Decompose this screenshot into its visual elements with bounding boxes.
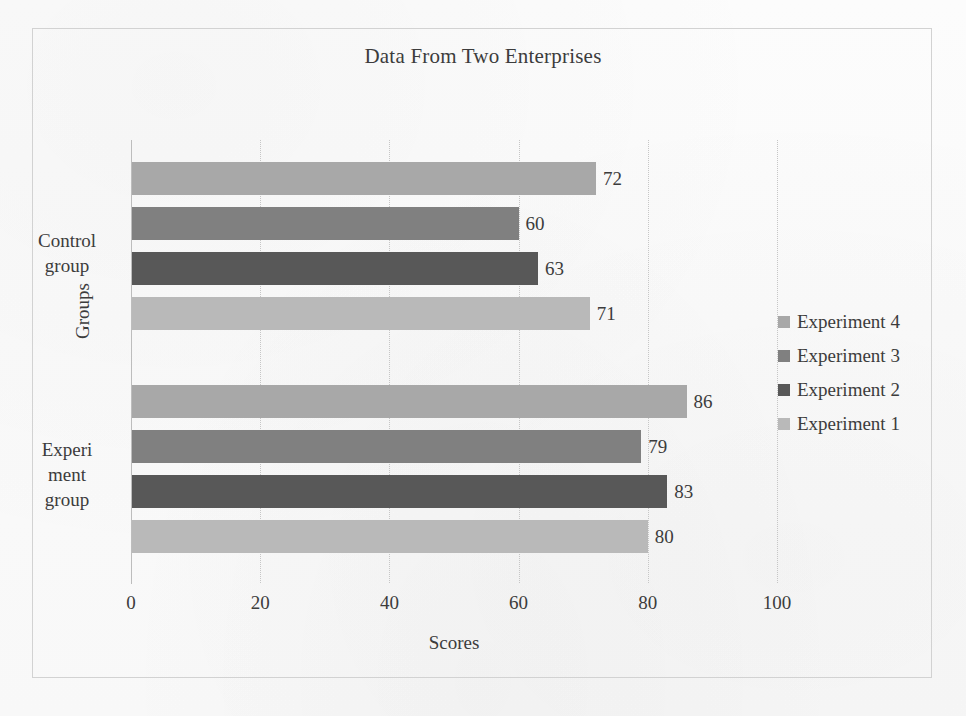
legend-swatch-icon-experiment-2 [778,384,790,396]
category-label-control-line-2: group [11,253,123,278]
legend-item-experiment-3[interactable]: Experiment 3 [778,339,938,373]
bar-row-control-experiment-1: 71 [131,297,777,330]
category-label-experiment-line-3: group [11,487,123,512]
bar-label-experiment-experiment-4: 86 [687,391,713,413]
bar-row-control-experiment-4: 72 [131,162,777,195]
category-label-control-group: Control group [11,228,123,278]
legend-swatch-icon-experiment-4 [778,316,790,328]
category-label-experiment-line-1: Experi [11,437,123,462]
legend-label-experiment-1: Experiment 1 [797,413,900,435]
x-tick-100: 100 [763,592,792,614]
bar-experiment-experiment-3[interactable] [131,430,641,463]
bar-row-control-experiment-3: 60 [131,207,777,240]
bar-control-experiment-3[interactable] [131,207,519,240]
chart-title: Data From Two Enterprises [0,44,966,69]
bar-label-control-experiment-4: 72 [596,168,622,190]
bar-row-experiment-experiment-3: 79 [131,430,777,463]
legend-label-experiment-3: Experiment 3 [797,345,900,367]
category-axis-labels: Control group Experi ment group [8,140,123,583]
x-tick-20: 20 [251,592,270,614]
bar-cluster-control: 72 60 63 71 [131,162,777,342]
bar-experiment-experiment-1[interactable] [131,520,648,553]
category-label-experiment-group: Experi ment group [11,437,123,512]
x-tick-40: 40 [380,592,399,614]
legend-label-experiment-4: Experiment 4 [797,311,900,333]
legend-swatch-icon-experiment-3 [778,350,790,362]
bar-row-control-experiment-2: 63 [131,252,777,285]
y-axis-title: Groups [72,246,94,376]
legend-item-experiment-2[interactable]: Experiment 2 [778,373,938,407]
chart-figure: Data From Two Enterprises 72 60 63 [0,0,966,716]
bar-control-experiment-1[interactable] [131,297,590,330]
bar-cluster-experiment: 86 79 83 80 [131,385,777,565]
category-axis-line [131,140,132,584]
legend-label-experiment-2: Experiment 2 [797,379,900,401]
legend-swatch-icon-experiment-1 [778,418,790,430]
bar-label-control-experiment-3: 60 [519,213,545,235]
plot-area: 72 60 63 71 86 79 [131,140,777,583]
category-label-experiment-line-2: ment [11,462,123,487]
bar-row-experiment-experiment-4: 86 [131,385,777,418]
bar-row-experiment-experiment-2: 83 [131,475,777,508]
bar-label-experiment-experiment-1: 80 [648,526,674,548]
bar-label-control-experiment-2: 63 [538,258,564,280]
chart-legend: Experiment 4 Experiment 3 Experiment 2 E… [778,305,938,441]
bar-control-experiment-4[interactable] [131,162,596,195]
x-tick-80: 80 [638,592,657,614]
bar-experiment-experiment-2[interactable] [131,475,667,508]
bar-control-experiment-2[interactable] [131,252,538,285]
x-tick-0: 0 [126,592,136,614]
x-axis-ticks: 0 20 40 60 80 100 [131,592,777,620]
category-label-control-line-1: Control [11,228,123,253]
x-tick-60: 60 [509,592,528,614]
bar-label-control-experiment-1: 71 [590,303,616,325]
bar-row-experiment-experiment-1: 80 [131,520,777,553]
bar-label-experiment-experiment-2: 83 [667,481,693,503]
x-axis-title: Scores [131,632,777,654]
bar-label-experiment-experiment-3: 79 [641,436,667,458]
legend-item-experiment-1[interactable]: Experiment 1 [778,407,938,441]
bar-experiment-experiment-4[interactable] [131,385,687,418]
legend-item-experiment-4[interactable]: Experiment 4 [778,305,938,339]
